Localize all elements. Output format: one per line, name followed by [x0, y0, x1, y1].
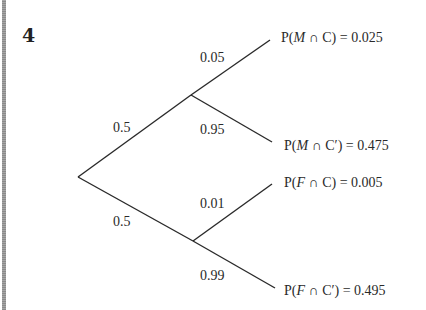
outcome-F-and-C: P(F ∩ C) = 0.005 [284, 175, 383, 191]
outcome-M-and-C: P(M ∩ C) = 0.025 [281, 30, 383, 46]
outcome-F-and-Cprime: P(F ∩ C′) = 0.495 [284, 283, 386, 299]
prob-label-F: 0.5 [113, 214, 131, 229]
edge-root-to-M [78, 95, 191, 177]
prob-label-F-Cprime: 0.99 [200, 268, 225, 283]
outcome-M-and-Cprime: P(M ∩ C′) = 0.475 [284, 138, 389, 154]
edge-F-to-C [193, 184, 272, 241]
prob-label-M: 0.5 [113, 120, 131, 135]
probability-tree-diagram: 0.5 0.5 0.05 0.95 0.01 0.99 P(M ∩ C) = 0… [0, 0, 426, 310]
edge-root-to-F [78, 177, 193, 241]
prob-label-M-C: 0.05 [200, 50, 225, 65]
prob-label-F-C: 0.01 [200, 196, 225, 211]
prob-label-M-Cprime: 0.95 [200, 122, 225, 137]
edge-M-to-C [191, 40, 270, 95]
